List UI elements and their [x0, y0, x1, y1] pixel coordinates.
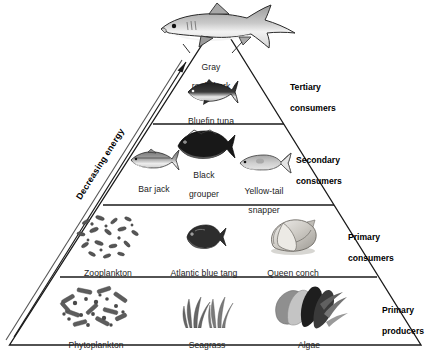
tier-line2: consumers	[296, 176, 342, 186]
species-line1: Gray	[202, 62, 221, 72]
tuna-icon	[182, 78, 240, 106]
tier-label-primary-producers: Primary producers	[382, 295, 437, 337]
tier-line2: producers	[382, 326, 424, 336]
species-line1: Phytoplankton	[68, 340, 123, 350]
black-grouper-icon	[172, 128, 236, 161]
tier-label-secondary-consumers: Secondary consumers	[296, 145, 396, 187]
species-line1: Yellow-tail	[245, 186, 284, 196]
tier-label-primary-consumers: Primary consumers	[348, 222, 436, 264]
species-line1: Zooplankton	[84, 268, 132, 278]
species-line1: Bar jack	[138, 184, 169, 194]
species-label-phytoplankton: Phytoplankton	[53, 331, 139, 350]
species-label-yellowtail-snapper: Yellow-tail snapper	[228, 177, 300, 216]
species-label-seagrass: Seagrass	[172, 331, 242, 350]
species-label-algae: Algae	[278, 331, 340, 350]
species-line2: snapper	[248, 205, 279, 215]
tier-label-tertiary-consumers: Tertiary consumers	[290, 72, 380, 114]
species-line1: Atlantic blue tang	[171, 268, 238, 278]
species-label-queen-conch: Queen conch	[252, 259, 334, 278]
tier-line1: Primary	[348, 232, 380, 242]
species-line1: Black	[193, 170, 214, 180]
species-line2: grouper	[189, 189, 219, 199]
tier-line2: consumers	[290, 103, 336, 113]
species-line1: Seagrass	[189, 340, 226, 350]
tier-line1: Secondary	[296, 155, 340, 165]
tier-line2: consumers	[348, 253, 394, 263]
phytoplankton-icon	[55, 283, 135, 328]
species-label-bluefin-tuna: Bluefin tuna	[176, 107, 246, 126]
species-line1: Algae	[298, 340, 320, 350]
species-label-black-grouper: Black grouper	[174, 161, 234, 200]
species-label-atlantic-blue-tang: Atlantic blue tang	[158, 259, 250, 278]
algae-icon	[272, 284, 348, 330]
zooplankton-icon	[72, 212, 144, 260]
species-line1: Bluefin tuna	[188, 116, 234, 126]
tier-line1: Tertiary	[290, 82, 321, 92]
species-label-zooplankton: Zooplankton	[68, 259, 148, 278]
seagrass-icon	[180, 288, 234, 328]
queen-conch-icon	[263, 216, 321, 256]
tier-line1: Primary	[382, 305, 414, 315]
species-line1: Queen conch	[267, 268, 319, 278]
blue-tang-icon	[181, 222, 227, 250]
yellowtail-snapper-icon	[235, 150, 293, 176]
pyramid-diagram: Decreasing energy Gray reef shark Bluefi…	[0, 0, 437, 355]
